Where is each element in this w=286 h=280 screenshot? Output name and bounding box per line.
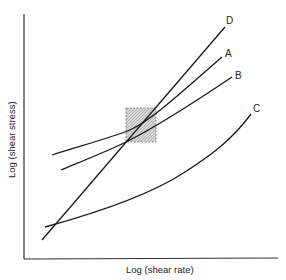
rheology-diagram: D A B C Log (shear rate) Log (shear stre…: [0, 0, 286, 280]
x-axis-label: Log (shear rate): [126, 264, 194, 275]
curve-label-c: C: [253, 103, 260, 114]
y-axis-label: Log (shear stress): [6, 101, 17, 178]
curve-label-b: B: [235, 70, 242, 81]
diagram-canvas: [0, 0, 286, 280]
curve-label-a: A: [225, 48, 232, 59]
curve-d: [42, 27, 225, 240]
curve-label-d: D: [226, 15, 233, 26]
x-axis: [24, 258, 278, 259]
